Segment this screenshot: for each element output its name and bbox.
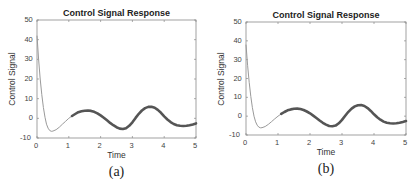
chart-b-xlabel: Time — [246, 147, 406, 157]
axes-box — [246, 22, 406, 135]
chart-panel-b: Control Signal Response Control Signal T… — [0, 0, 210, 187]
x-tick-label: 1 — [275, 138, 279, 147]
y-tick-label: 30 — [233, 55, 241, 64]
x-tick-label: 5 — [403, 138, 407, 147]
y-tick-label: -10 — [229, 130, 240, 139]
chart-b-ylabel: Control Signal — [216, 39, 226, 119]
chart-b-caption: (b) — [246, 161, 406, 177]
x-tick-label: 0 — [243, 138, 247, 147]
x-tick-label: 3 — [339, 138, 343, 147]
x-tick-label: 4 — [371, 138, 375, 147]
y-tick-label: 40 — [233, 36, 241, 45]
y-tick-label: 0 — [238, 111, 242, 120]
y-tick-label: 10 — [233, 92, 241, 101]
chart-b-plot — [0, 0, 420, 187]
y-tick-label: 50 — [233, 17, 241, 26]
y-tick-label: 20 — [233, 74, 241, 83]
chart-b-title: Control Signal Response — [246, 10, 406, 20]
x-tick-label: 2 — [307, 138, 311, 147]
